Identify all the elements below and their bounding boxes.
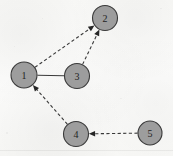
graph-node-2[interactable]: 2 bbox=[93, 6, 118, 31]
graph-edge-4-1 bbox=[36, 89, 67, 124]
graph-node-4[interactable]: 4 bbox=[64, 122, 89, 147]
graph-node-circle-4[interactable] bbox=[64, 122, 89, 147]
graph-edge-1-3 bbox=[37, 75, 64, 76]
graph-edge-5-4 bbox=[94, 133, 138, 134]
graph-node-circle-5[interactable] bbox=[138, 121, 162, 145]
arrowhead-icon-5-4 bbox=[89, 131, 95, 136]
node-layer: 12345 bbox=[11, 6, 162, 147]
graph-node-3[interactable]: 3 bbox=[65, 64, 90, 89]
graph-node-5[interactable]: 5 bbox=[138, 121, 162, 145]
graph-node-circle-1[interactable] bbox=[11, 62, 37, 88]
graph-node-circle-3[interactable] bbox=[65, 64, 90, 89]
graph-edge-3-2 bbox=[83, 34, 98, 64]
arrowhead-icon-3-2 bbox=[94, 30, 99, 37]
arrowhead-icon-1-2 bbox=[88, 25, 95, 31]
graph-node-1[interactable]: 1 bbox=[11, 62, 37, 88]
graph-canvas: 12345 bbox=[0, 0, 173, 156]
graph-figure: 12345 bbox=[0, 0, 173, 156]
graph-edge-1-2 bbox=[35, 28, 90, 67]
arrowhead-icon-4-1 bbox=[33, 85, 39, 91]
graph-node-circle-2[interactable] bbox=[93, 6, 118, 31]
